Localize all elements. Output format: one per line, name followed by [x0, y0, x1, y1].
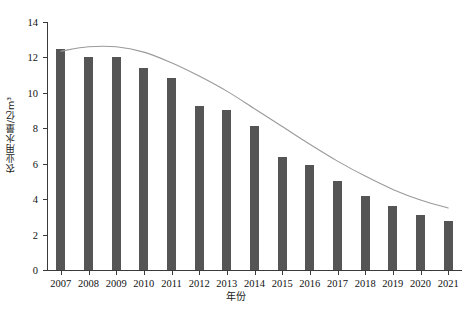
bar: [222, 110, 231, 270]
bar: [195, 106, 204, 270]
trend-line-overlay: [0, 0, 472, 319]
y-tick-label: 12: [16, 52, 38, 63]
y-tick-label: 0: [16, 265, 38, 276]
y-tick-label: 10: [16, 87, 38, 98]
bar: [139, 68, 148, 270]
x-axis-title: 年份: [0, 288, 472, 303]
x-tick-mark: [116, 271, 117, 275]
x-tick-mark: [421, 271, 422, 275]
bar: [388, 206, 397, 270]
bar: [416, 215, 425, 270]
bar: [56, 49, 65, 270]
bar: [84, 57, 93, 270]
y-tick-mark: [43, 270, 47, 271]
x-tick-mark: [255, 271, 256, 275]
x-tick-mark: [393, 271, 394, 275]
y-tick-label: 6: [16, 158, 38, 169]
bar: [361, 196, 370, 270]
x-tick-mark: [89, 271, 90, 275]
x-tick-mark: [144, 271, 145, 275]
x-tick-mark: [172, 271, 173, 275]
bar: [305, 165, 314, 270]
x-tick-mark: [199, 271, 200, 275]
y-tick-mark: [43, 93, 47, 94]
y-tick-mark: [43, 235, 47, 236]
y-tick-mark: [43, 22, 47, 23]
y-tick-label: 4: [16, 194, 38, 205]
x-tick-mark: [365, 271, 366, 275]
y-tick-mark: [43, 128, 47, 129]
y-tick-mark: [43, 199, 47, 200]
x-tick-mark: [310, 271, 311, 275]
x-tick-mark: [448, 271, 449, 275]
chart-container: 农业用水量/亿m³ 02468101214 200720082009201020…: [0, 0, 472, 319]
bar: [112, 57, 121, 270]
bar: [167, 78, 176, 270]
bar: [444, 221, 453, 270]
y-tick-label: 8: [16, 123, 38, 134]
y-tick-mark: [43, 57, 47, 58]
y-tick-mark: [43, 164, 47, 165]
y-axis-line: [47, 22, 48, 271]
bar: [278, 157, 287, 270]
x-tick-mark: [338, 271, 339, 275]
y-tick-label: 2: [16, 229, 38, 240]
x-axis-title-label: 年份: [226, 291, 246, 302]
x-tick-mark: [282, 271, 283, 275]
x-tick-mark: [61, 271, 62, 275]
x-tick-mark: [227, 271, 228, 275]
bar: [333, 181, 342, 270]
bar: [250, 126, 259, 270]
y-tick-label: 14: [16, 17, 38, 28]
